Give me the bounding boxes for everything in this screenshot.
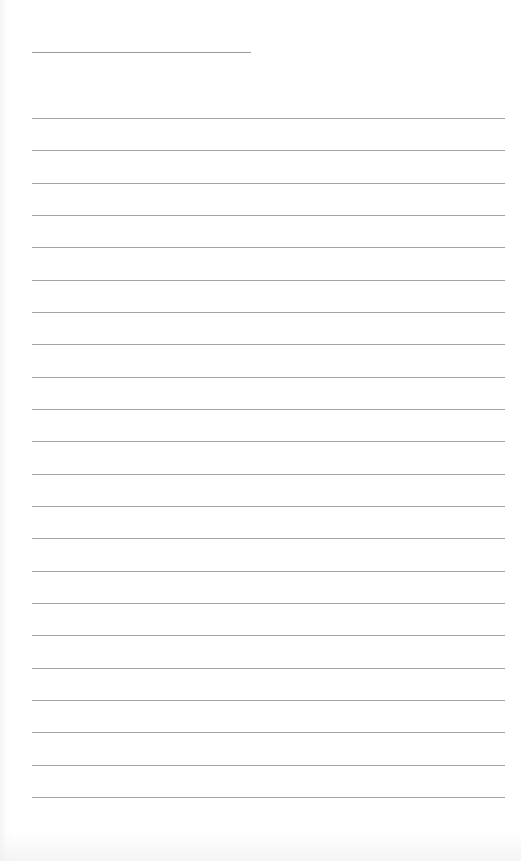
- ruled-line: [32, 506, 505, 507]
- ruled-line: [32, 635, 505, 636]
- ruled-line: [32, 312, 505, 313]
- ruled-line: [32, 247, 505, 248]
- ruled-line: [32, 538, 505, 539]
- ruled-line: [32, 765, 505, 766]
- ruled-line: [32, 377, 505, 378]
- ruled-line: [32, 441, 505, 442]
- title-underline: [32, 52, 251, 53]
- ruled-line: [32, 215, 505, 216]
- ruled-line: [32, 474, 505, 475]
- ruled-line: [32, 797, 505, 798]
- ruled-line: [32, 603, 505, 604]
- ruled-line: [32, 571, 505, 572]
- ruled-line: [32, 700, 505, 701]
- ruled-line: [32, 280, 505, 281]
- ruled-line: [32, 118, 505, 119]
- ruled-line: [32, 732, 505, 733]
- ruled-line: [32, 183, 505, 184]
- ruled-line: [32, 668, 505, 669]
- ruled-line: [32, 150, 505, 151]
- ruled-line: [32, 409, 505, 410]
- lined-paper-page: [0, 0, 521, 861]
- ruled-line: [32, 344, 505, 345]
